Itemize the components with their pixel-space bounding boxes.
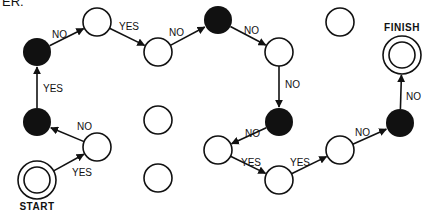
edge-label: NO bbox=[245, 128, 260, 139]
edge-label: YES bbox=[72, 167, 92, 178]
double-circle-inner-icon bbox=[389, 42, 415, 68]
edge-label: NO bbox=[244, 25, 259, 36]
flow-diagram: ER. YESNOYESNOYESNONONONOYESYESNONO FINI… bbox=[0, 0, 431, 214]
edge-label: NO bbox=[169, 27, 184, 38]
edge-label: NO bbox=[52, 29, 67, 40]
node-i bbox=[144, 106, 172, 134]
edge-M-N: YES bbox=[290, 157, 327, 174]
hollow-circle-icon bbox=[144, 106, 172, 134]
hollow-circle-icon bbox=[204, 136, 232, 164]
edge-label: NO bbox=[355, 127, 370, 138]
filled-circle-icon bbox=[23, 108, 51, 136]
edge-label: NO bbox=[406, 91, 421, 102]
hollow-circle-icon bbox=[144, 164, 172, 192]
arrow-icon bbox=[400, 75, 401, 109]
hollow-circle-icon bbox=[326, 8, 354, 36]
node-g bbox=[23, 108, 51, 136]
finish-label: FINISH bbox=[384, 22, 420, 33]
node-finish: FINISH bbox=[383, 22, 421, 74]
edge-label: NO bbox=[285, 79, 300, 90]
hollow-circle-icon bbox=[144, 38, 172, 66]
edge-C-D: NO bbox=[169, 27, 205, 45]
diagram-canvas: ER. YESNOYESNOYESNONONONOYESYESNONO FINI… bbox=[0, 0, 431, 214]
node-l bbox=[204, 136, 232, 164]
edge-N-O: NO bbox=[353, 127, 387, 144]
edge-O-FINISH: NO bbox=[400, 75, 421, 109]
edge-L-M: YES bbox=[231, 156, 266, 173]
double-circle-inner-icon bbox=[24, 167, 50, 193]
filled-circle-icon bbox=[265, 108, 293, 136]
node-j bbox=[144, 164, 172, 192]
edge-K-L: NO bbox=[232, 128, 267, 144]
filled-circle-icon bbox=[204, 6, 232, 34]
hollow-circle-icon bbox=[83, 133, 111, 161]
hollow-circle-icon bbox=[83, 8, 111, 36]
hollow-circle-icon bbox=[265, 38, 293, 66]
edge-label: YES bbox=[119, 21, 139, 32]
node-e bbox=[265, 38, 293, 66]
node-h bbox=[83, 133, 111, 161]
edge-label: YES bbox=[241, 157, 261, 168]
edge-B-C: YES bbox=[110, 21, 145, 45]
edge-E-K: NO bbox=[279, 66, 300, 107]
node-m bbox=[265, 166, 293, 194]
edge-label: NO bbox=[77, 121, 92, 132]
edge-label: YES bbox=[43, 83, 63, 94]
node-o bbox=[386, 109, 414, 137]
hollow-circle-icon bbox=[326, 136, 354, 164]
header-partial-text: ER. bbox=[2, 0, 24, 9]
edge-START-H: YES bbox=[54, 154, 93, 178]
edge-label: YES bbox=[290, 157, 310, 168]
node-n bbox=[326, 136, 354, 164]
node-b bbox=[83, 8, 111, 36]
filled-circle-icon bbox=[386, 109, 414, 137]
filled-circle-icon bbox=[23, 38, 51, 66]
hollow-circle-icon bbox=[265, 166, 293, 194]
edge-D-E: NO bbox=[230, 25, 265, 45]
start-label: START bbox=[19, 201, 54, 212]
node-c bbox=[144, 38, 172, 66]
nodes-layer: FINISHSTART bbox=[18, 6, 421, 212]
node-k bbox=[265, 108, 293, 136]
node-a bbox=[23, 38, 51, 66]
edge-A-B: NO bbox=[50, 29, 84, 46]
node-d bbox=[204, 6, 232, 34]
node-start: START bbox=[18, 161, 56, 212]
node-f bbox=[326, 8, 354, 36]
edge-G-A: YES bbox=[37, 67, 63, 108]
